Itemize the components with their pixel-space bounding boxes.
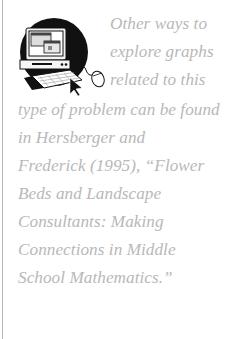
note-line: Beds and Landscape xyxy=(18,180,230,208)
note-line: Frederick (1995), “Flower xyxy=(18,152,230,180)
note-line: Connections in Middle xyxy=(18,236,230,264)
note-line: in Hersberger and xyxy=(18,124,230,152)
computer-icon-container xyxy=(18,10,106,96)
note-text: Other ways to explore graphs related to … xyxy=(18,8,230,292)
sidebar-note: Other ways to explore graphs related to … xyxy=(18,8,230,292)
note-line: School Mathematics.” xyxy=(18,264,230,292)
margin-rule xyxy=(2,0,3,339)
note-line: type of problem can be found xyxy=(18,96,230,124)
computer-mouse-icon xyxy=(18,16,106,96)
note-line: Consultants: Making xyxy=(18,208,230,236)
